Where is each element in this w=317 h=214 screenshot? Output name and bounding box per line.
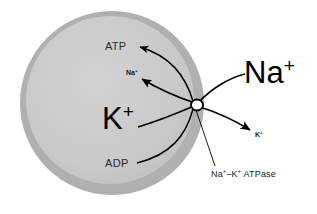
na-k-atpase-diagram: ATP ADP Na+ K+ K+ Na+ Na+–K+ ATPase xyxy=(0,0,317,214)
sodium-intracellular-label: Na+ xyxy=(126,69,137,76)
potassium-extracellular-label: K+ xyxy=(255,131,263,138)
diagram-canvas xyxy=(0,0,317,214)
sodium-outside-label: Na+ xyxy=(244,57,295,88)
atpase-pump-icon xyxy=(191,100,203,111)
atpase-caption: Na+–K+ ATPase xyxy=(211,170,276,179)
adp-label: ADP xyxy=(105,158,129,169)
atp-label: ATP xyxy=(105,41,126,52)
potassium-outward-arrow xyxy=(200,107,250,130)
caption-leader-line xyxy=(196,110,215,166)
sodium-influx-arrow xyxy=(199,74,245,102)
potassium-inside-label: K+ xyxy=(102,103,134,134)
